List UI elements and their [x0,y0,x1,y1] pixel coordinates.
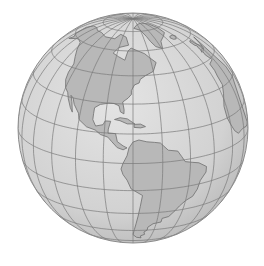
globe-map [0,0,264,266]
orthographic-globe [0,0,264,266]
